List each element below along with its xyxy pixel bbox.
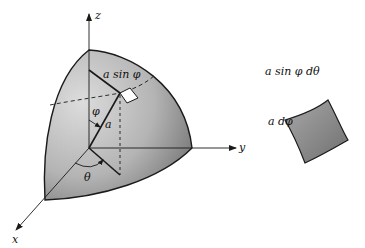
element-top-edge-label: a sin φ dθ [265, 66, 320, 77]
theta-label: θ [84, 172, 91, 183]
y-axis-label: y [239, 142, 245, 153]
element-side-edge-label: a dφ [268, 116, 293, 127]
x-axis-label: x [12, 234, 18, 245]
phi-label: φ [92, 106, 100, 117]
z-axis-label: z [95, 10, 101, 21]
surface-element [285, 100, 348, 163]
a-sin-phi-label: a sin φ [103, 69, 141, 80]
radius-label: a [105, 119, 112, 130]
spherical-diagram [0, 0, 365, 248]
